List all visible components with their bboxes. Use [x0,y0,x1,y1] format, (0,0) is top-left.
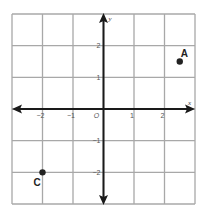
y-tick-label: −2 [93,169,101,176]
point-label-c: C [34,177,41,188]
y-tick-label: 1 [97,74,101,81]
y-tick-label: −1 [93,137,101,144]
x-tick-label: 2 [161,112,165,119]
y-axis-label: y [108,15,113,23]
coordinate-plane: yx −2−112O21−1−2 AC [0,0,210,214]
point-c [39,169,45,175]
x-tick-label: −2 [37,112,45,119]
y-tick-label: 2 [97,42,101,49]
origin-label: O [94,112,100,119]
x-tick-label: 1 [130,112,134,119]
axes: yx [12,13,195,205]
x-tick-label: −1 [67,112,75,119]
point-label-a: A [181,48,188,59]
x-axis-label: x [187,99,192,107]
point-a [177,58,183,64]
